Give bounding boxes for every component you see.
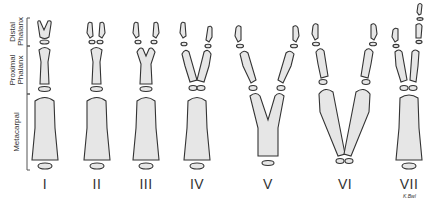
proximal-label-line2: Phalanx	[17, 46, 25, 94]
type-ii-bones	[84, 22, 110, 169]
type-label-vii: VII	[400, 176, 419, 192]
type-vii-bones	[392, 4, 423, 170]
type-iv-bones	[180, 22, 212, 169]
type-label-ii: II	[93, 176, 102, 192]
type-label-i: I	[43, 176, 47, 192]
label-distal-phalanx: Distal Phalanx	[9, 18, 25, 46]
type-i-bones	[32, 21, 58, 169]
type-label-iii: III	[139, 176, 152, 192]
type-label-v: V	[263, 176, 273, 192]
bone-illustration	[0, 0, 430, 205]
type-v-bones	[235, 26, 299, 166]
artist-signature: K.Bwl	[403, 193, 416, 199]
label-metacarpal: Metacarpal	[13, 94, 21, 170]
label-proximal-phalanx: Proximal Phalanx	[9, 46, 25, 94]
type-label-iv: IV	[190, 176, 204, 192]
region-brackets	[27, 18, 30, 170]
distal-label-line2: Phalanx	[17, 18, 25, 46]
metacarpal-label: Metacarpal	[13, 94, 21, 170]
type-iii-bones	[133, 22, 159, 169]
type-label-vi: VI	[338, 176, 352, 192]
type-vi-bones	[312, 24, 377, 164]
